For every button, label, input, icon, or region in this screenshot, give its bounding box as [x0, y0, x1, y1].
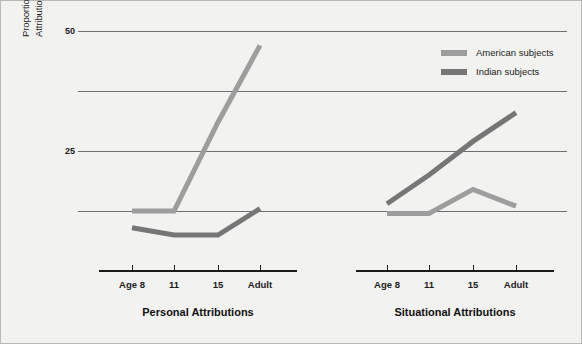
- x-tick-right-adult: [516, 265, 517, 271]
- series-line-personal-american: [132, 45, 260, 211]
- legend-label-american: American subjects: [476, 47, 554, 58]
- x-tick-left-age8: [132, 265, 133, 271]
- x-label-right-15: 15: [450, 279, 496, 290]
- x-axis-left: [99, 270, 297, 272]
- x-tick-right-age8: [387, 265, 388, 271]
- x-label-left-age8: Age 8: [109, 279, 155, 290]
- x-label-left-15: 15: [195, 279, 241, 290]
- gridline-25: [78, 151, 567, 152]
- chart-figure: Proportion of Personal and Situational A…: [0, 0, 582, 344]
- x-tick-left-adult: [260, 265, 261, 271]
- x-tick-right-15: [473, 265, 474, 271]
- gridline-37-5: [78, 91, 567, 92]
- x-label-right-adult: Adult: [493, 279, 539, 290]
- legend-item-american[interactable]: American subjects: [441, 43, 554, 62]
- legend-swatch-american: [441, 50, 467, 56]
- legend-item-indian[interactable]: Indian subjects: [441, 62, 554, 81]
- x-tick-right-11: [429, 265, 430, 271]
- legend-label-indian: Indian subjects: [476, 66, 539, 77]
- gridline-50: [78, 31, 567, 32]
- y-axis-title: Proportion of Personal and Situational A…: [19, 0, 49, 37]
- y-axis-title-line-1: Proportion of Personal and Situational: [19, 0, 32, 37]
- x-tick-left-11: [174, 265, 175, 271]
- x-label-right-11: 11: [406, 279, 452, 290]
- gridline-12-5: [78, 211, 567, 212]
- series-line-situational-american: [387, 189, 516, 213]
- series-line-situational-indian: [387, 113, 516, 204]
- y-tick-label-25: 25: [53, 146, 75, 156]
- x-tick-left-15: [218, 265, 219, 271]
- panel-title-situational: Situational Attributions: [356, 306, 554, 318]
- series-line-personal-indian: [132, 209, 260, 235]
- x-label-left-adult: Adult: [237, 279, 283, 290]
- y-axis-title-line-2: Attributions for Negative Behaviors: [32, 0, 45, 37]
- x-axis-right: [356, 270, 554, 272]
- x-label-right-age8: Age 8: [364, 279, 410, 290]
- panel-title-personal: Personal Attributions: [99, 306, 297, 318]
- x-label-left-11: 11: [151, 279, 197, 290]
- y-tick-label-50: 50: [53, 26, 75, 36]
- legend: American subjects Indian subjects: [441, 43, 554, 81]
- legend-swatch-indian: [441, 69, 467, 75]
